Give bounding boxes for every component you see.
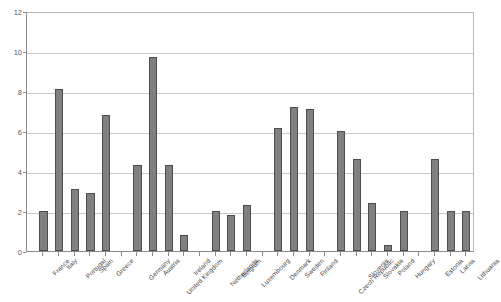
y-axis-tick [23, 172, 26, 173]
bar [337, 131, 345, 251]
x-axis-tick [371, 252, 372, 256]
bar [55, 89, 63, 251]
bar [290, 107, 298, 251]
x-axis-label: Hungary [413, 257, 436, 280]
x-axis-tick [121, 252, 122, 256]
bar [447, 211, 455, 251]
y-axis-tick [23, 252, 26, 253]
x-axis-tick [262, 252, 263, 256]
x-axis-tick [309, 252, 310, 256]
bar [462, 211, 470, 251]
bar [431, 159, 439, 251]
x-axis-tick [293, 252, 294, 256]
x-axis-tick [277, 252, 278, 256]
chart-title [96, 0, 386, 4]
y-axis-tick-label: 4 [0, 168, 22, 177]
x-axis-tick [434, 252, 435, 256]
y-axis-tick-label: 6 [0, 128, 22, 137]
bar [227, 215, 235, 251]
x-axis-tick [215, 252, 216, 256]
y-axis-tick [23, 212, 26, 213]
y-axis-tick-label: 2 [0, 208, 22, 217]
y-axis-tick [23, 132, 26, 133]
y-axis-tick [23, 12, 26, 13]
bar [384, 245, 392, 251]
bar [368, 203, 376, 251]
bar [180, 235, 188, 251]
plot-area [26, 12, 474, 252]
x-axis-label: Lithuania [476, 257, 500, 281]
bars-layer [27, 13, 473, 251]
x-axis-tick [105, 252, 106, 256]
x-axis-tick [340, 252, 341, 256]
y-axis-tick-label: 8 [0, 88, 22, 97]
x-axis-tick [183, 252, 184, 256]
x-axis-tick [465, 252, 466, 256]
bar [149, 57, 157, 251]
bar [165, 165, 173, 251]
bar [71, 189, 79, 251]
x-axis-tick [403, 252, 404, 256]
y-axis-tick-label: 0 [0, 248, 22, 257]
x-axis-tick [152, 252, 153, 256]
x-axis-tick [246, 252, 247, 256]
x-axis-label: Luxembourg [260, 257, 291, 288]
x-axis-label: Greece [115, 257, 135, 277]
x-axis-tick [356, 252, 357, 256]
x-axis-tick [42, 252, 43, 256]
x-axis-tick [418, 252, 419, 256]
y-axis-tick [23, 52, 26, 53]
x-axis-tick [89, 252, 90, 256]
bar [86, 193, 94, 251]
bar [353, 159, 361, 251]
y-axis-tick-label: 12 [0, 8, 22, 17]
bar [274, 128, 282, 251]
bar [212, 211, 220, 251]
bar [306, 109, 314, 251]
x-axis-tick [230, 252, 231, 256]
bar [133, 165, 141, 251]
x-axis-tick [387, 252, 388, 256]
y-axis-tick [23, 92, 26, 93]
x-axis-tick [199, 252, 200, 256]
x-axis-tick [74, 252, 75, 256]
bar [400, 211, 408, 251]
x-axis-tick [168, 252, 169, 256]
x-axis-tick [450, 252, 451, 256]
x-axis-tick [324, 252, 325, 256]
x-axis-tick [136, 252, 137, 256]
x-axis-tick [58, 252, 59, 256]
y-axis-tick-label: 10 [0, 48, 22, 57]
bar [102, 115, 110, 251]
bar [243, 205, 251, 251]
bar [39, 211, 47, 251]
